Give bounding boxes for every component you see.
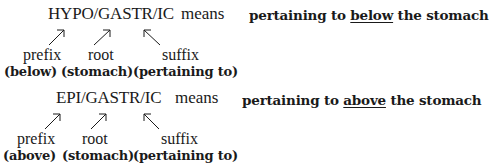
prefix-label: prefix xyxy=(17,130,55,148)
meaning-text: pertaining to above the stomach xyxy=(242,92,481,108)
root-gloss: (stomach) xyxy=(62,148,134,163)
root-label: root xyxy=(82,130,108,148)
prefix-gloss: (above) xyxy=(3,148,56,163)
suffix-label: suffix xyxy=(161,130,198,148)
meaning-before: pertaining to xyxy=(242,92,343,108)
meaning-emphasis: above xyxy=(343,92,386,108)
meaning-after: the stomach xyxy=(386,92,482,108)
suffix-gloss: (pertaining to) xyxy=(133,148,238,163)
